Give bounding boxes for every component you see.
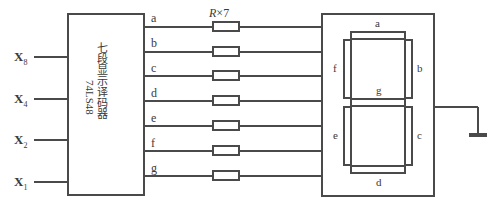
input-label-x4: X4: [14, 92, 27, 109]
display-segment-g: [351, 99, 405, 106]
resistor-e: [213, 121, 239, 130]
display-segment-f: [344, 40, 351, 98]
circuit-diagram: X8 X4 X2 X1 七段显示译码器 74LS48 a b c d e f g…: [0, 0, 496, 210]
resistor-f: [213, 146, 239, 155]
segment-label-f: f: [333, 63, 337, 74]
resistor-bank-label: R×7: [209, 7, 229, 19]
resistor-label-count: 7: [223, 6, 229, 20]
resistor-b: [213, 47, 239, 56]
display-segment-a: [351, 32, 405, 39]
segment-label-b: b: [417, 63, 423, 74]
segment-label-a: a: [375, 18, 380, 29]
display-segment-d: [351, 166, 405, 173]
decoder-part-number: 74LS48: [82, 80, 97, 140]
output-label-d: d: [151, 87, 157, 99]
resistor-g: [213, 171, 239, 180]
diagram-lines: [0, 0, 496, 210]
output-label-b: b: [151, 37, 157, 49]
input-label-x8: X8: [14, 50, 27, 67]
display-segment-b: [405, 40, 412, 98]
segment-label-c: c: [417, 130, 422, 141]
input-label-x1: X1: [14, 175, 27, 192]
segment-label-g: g: [376, 85, 382, 96]
input-label-x2: X2: [14, 133, 27, 150]
resistor-a: [213, 22, 239, 31]
output-label-f: f: [151, 137, 155, 149]
segment-label-d: d: [376, 177, 382, 188]
resistor-c: [213, 71, 239, 80]
display-segment-c: [405, 107, 412, 165]
segment-label-e: e: [333, 130, 338, 141]
output-label-c: c: [151, 62, 156, 74]
output-label-e: e: [151, 112, 156, 124]
output-label-g: g: [151, 162, 157, 174]
output-label-a: a: [151, 12, 156, 24]
resistor-d: [213, 96, 239, 105]
display-segment-e: [344, 107, 351, 165]
